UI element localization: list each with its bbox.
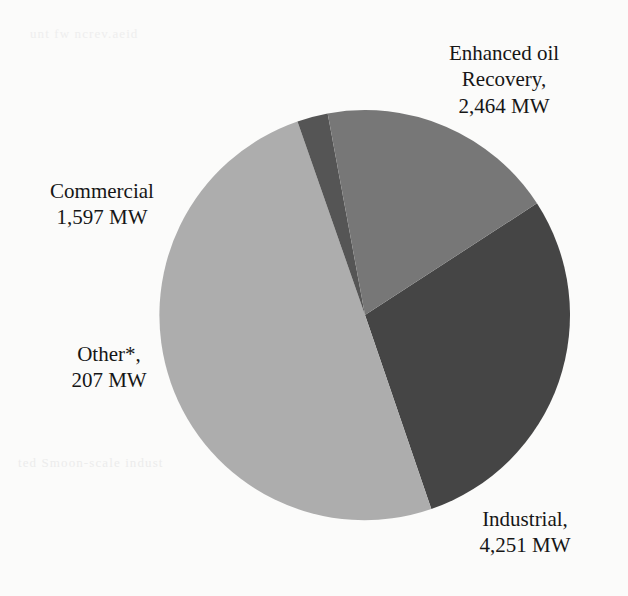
slice-label-enhanced-oil-recovery: Enhanced oil Recovery, 2,464 MW bbox=[398, 40, 610, 119]
slice-label-commercial: Commercial 1,597 MW bbox=[8, 178, 196, 231]
pie-chart-figure: unt fw ncrev.aeid ted Smoon-scale indust… bbox=[0, 0, 628, 596]
slice-label-other: Other*, 207 MW bbox=[34, 341, 184, 394]
slice-label-industrial: Industrial, 4,251 MW bbox=[430, 506, 620, 559]
